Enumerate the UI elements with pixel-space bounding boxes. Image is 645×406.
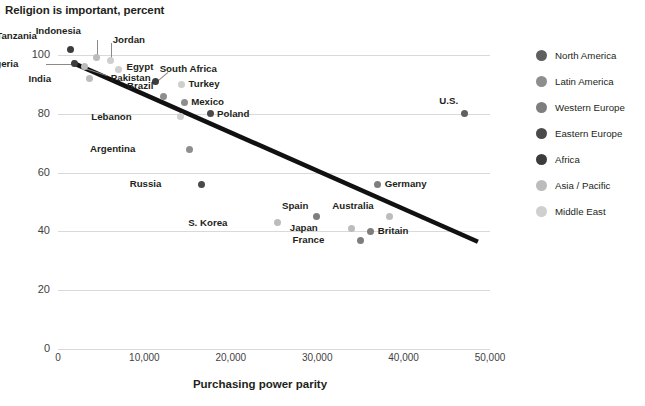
data-point-label: South Africa [160,64,217,74]
data-point[interactable] [186,146,193,153]
legend-swatch-icon [536,102,547,113]
legend-item-label: Eastern Europe [555,128,622,139]
label-leader-line [46,64,72,66]
data-point-label: Mexico [191,97,224,107]
data-point[interactable] [93,54,100,61]
data-point[interactable] [198,181,205,188]
legend-item-label: North America [555,50,616,61]
data-point-label: Tanzania [0,31,37,41]
data-point-label: Brazil [127,81,153,91]
plot-area: 020406080100 010,00020,00030,00040,00050… [0,0,510,360]
legend-item-latin-america[interactable]: Latin America [536,68,645,94]
x-axis-tick: 10,000 [109,352,179,363]
data-point[interactable] [367,228,374,235]
data-point-label: Spain [282,201,308,211]
legend-swatch-icon [536,154,547,165]
legend-item-label: Asia / Pacific [555,180,610,191]
data-point-label: U.S. [439,96,458,106]
legend-item-middle-east[interactable]: Middle East [536,198,645,224]
data-point[interactable] [178,81,185,88]
legend-item-label: Middle East [555,206,606,217]
data-point[interactable] [160,93,167,100]
data-point-label: S. Korea [188,218,227,228]
legend-item-label: Latin America [555,76,614,87]
legend-item-asia-pacific[interactable]: Asia / Pacific [536,172,645,198]
scatter-chart: Religion is important, percent 020406080… [0,0,645,406]
gridline [58,290,490,291]
data-point[interactable] [181,99,188,106]
x-axis-tick: 30,000 [282,352,352,363]
legend-swatch-icon [536,76,547,87]
data-point[interactable] [313,213,320,220]
data-point[interactable] [374,181,381,188]
legend-swatch-icon [536,128,547,139]
data-point-label: France [293,235,325,245]
data-point-label: India [28,74,51,84]
data-point-label: Poland [217,109,249,119]
x-axis-tick: 0 [23,352,93,363]
legend-swatch-icon [536,50,547,61]
y-axis-tick: 60 [10,166,50,178]
data-point-label: Argentina [90,144,135,154]
legend-item-north-america[interactable]: North America [536,42,645,68]
y-axis-tick: 20 [10,283,50,295]
data-point[interactable] [386,213,393,220]
data-point-label: Egypt [126,62,153,72]
legend-item-label: Western Europe [555,102,625,113]
gridline [58,173,490,174]
y-axis-tick: 80 [10,107,50,119]
x-axis-tick: 50,000 [455,352,525,363]
gridline [58,349,490,350]
gridline [58,55,490,56]
legend-item-label: Africa [555,154,580,165]
trend-line [0,0,510,360]
data-point-label: Indonesia [36,26,81,36]
data-point-label: Nigeria [0,59,18,69]
data-point[interactable] [71,60,78,67]
data-point[interactable] [207,110,214,117]
x-axis-title: Purchasing power parity [0,378,520,390]
legend: North AmericaLatin AmericaWestern Europe… [536,42,645,224]
legend-item-africa[interactable]: Africa [536,146,645,172]
data-point-label: Japan [290,223,318,233]
data-point[interactable] [86,75,93,82]
data-point-label: Jordan [113,35,145,45]
data-point-label: Russia [130,179,162,189]
data-point-label: Australia [332,201,373,211]
gridline [58,231,490,232]
y-axis-tick: 40 [10,224,50,236]
data-point-label: Turkey [189,79,220,89]
data-point-label: Britain [378,226,409,236]
legend-swatch-icon [536,206,547,217]
legend-item-eastern-europe[interactable]: Eastern Europe [536,120,645,146]
legend-item-western-europe[interactable]: Western Europe [536,94,645,120]
legend-swatch-icon [536,180,547,191]
data-point[interactable] [461,110,468,117]
data-point[interactable] [67,46,74,53]
data-point[interactable] [177,113,184,120]
x-axis-tick: 20,000 [196,352,266,363]
x-axis-tick: 40,000 [369,352,439,363]
data-point[interactable] [357,237,364,244]
data-point[interactable] [274,219,281,226]
data-point[interactable] [107,57,114,64]
data-point-label: Lebanon [91,112,131,122]
data-point-label: Germany [385,179,427,189]
